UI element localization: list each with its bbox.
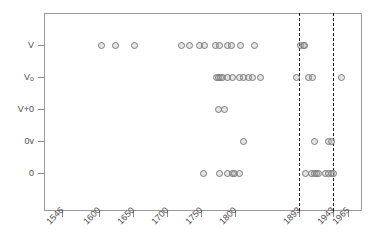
data-points-layer bbox=[0, 0, 384, 250]
data-point bbox=[309, 74, 316, 81]
data-point bbox=[338, 74, 345, 81]
data-point bbox=[237, 42, 244, 49]
data-point bbox=[301, 42, 308, 49]
data-point bbox=[257, 74, 264, 81]
data-point bbox=[98, 42, 105, 49]
data-point bbox=[200, 170, 207, 177]
data-point bbox=[229, 74, 236, 81]
data-point bbox=[251, 42, 258, 49]
data-point bbox=[293, 74, 300, 81]
data-point bbox=[178, 42, 185, 49]
data-point bbox=[249, 74, 256, 81]
data-point bbox=[186, 42, 193, 49]
data-point bbox=[216, 42, 223, 49]
data-point bbox=[228, 42, 235, 49]
data-point bbox=[112, 42, 119, 49]
data-point bbox=[330, 170, 337, 177]
data-point bbox=[131, 42, 138, 49]
data-point bbox=[216, 170, 223, 177]
data-point bbox=[315, 170, 322, 177]
scatter-chart: VVoV+00v0 154616001650170017501800189319… bbox=[0, 0, 384, 250]
data-point bbox=[328, 138, 335, 145]
data-point bbox=[240, 138, 247, 145]
data-point bbox=[221, 106, 228, 113]
data-point bbox=[201, 42, 208, 49]
data-point bbox=[236, 170, 243, 177]
data-point bbox=[311, 138, 318, 145]
